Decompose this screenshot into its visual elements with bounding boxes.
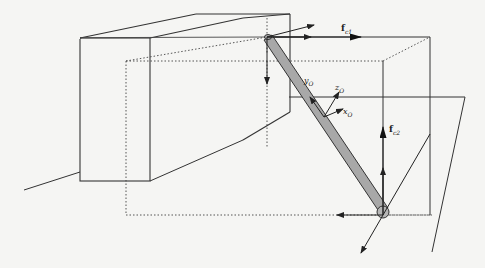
zO-subscript: O <box>339 87 344 94</box>
force-label-fc2: fc2 <box>389 125 400 136</box>
diagram-svg <box>0 0 485 268</box>
axis-label-yO: yO <box>304 77 313 87</box>
diagram-canvas: fc1 fc2 yO zO xO <box>0 0 485 268</box>
fc1-subscript: c1 <box>345 28 352 35</box>
axis-label-xO: xO <box>343 108 352 118</box>
fc2-subscript: c2 <box>393 129 400 136</box>
ground-plane <box>24 97 465 252</box>
force-label-fc1: fc1 <box>341 24 352 35</box>
rod <box>264 35 389 219</box>
box <box>80 14 290 181</box>
force-arrows <box>267 25 430 253</box>
yO-subscript: O <box>309 80 314 87</box>
axis-label-zO: zO <box>335 84 344 94</box>
xO-subscript: O <box>348 111 353 118</box>
